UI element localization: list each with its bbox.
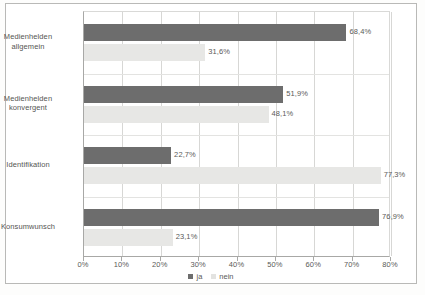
- bar-nein-0: [84, 44, 205, 61]
- x-tick-label: 10%: [106, 260, 136, 269]
- bar-value-label: 23,1%: [176, 228, 198, 245]
- x-tick-label: 80%: [375, 260, 405, 269]
- category-label: Medienheldenallgemein: [0, 32, 67, 51]
- chart-frame: Medienheldenallgemein68,4%31,6%Medienhel…: [5, 3, 417, 284]
- legend-swatch-icon: [211, 274, 216, 279]
- bar-value-label: 51,9%: [286, 85, 308, 102]
- bar-value-label: 31,6%: [208, 43, 230, 60]
- category-label: Konsumwunsch: [0, 222, 67, 232]
- bar-value-label: 22,7%: [174, 146, 196, 163]
- category-separator: [84, 197, 389, 198]
- x-tick-label: 50%: [260, 260, 290, 269]
- x-tick-label: 0%: [68, 260, 98, 269]
- bar-nein-3: [84, 229, 173, 246]
- category-label-line: konvergent: [0, 103, 67, 113]
- category-label-line: allgemein: [0, 42, 67, 52]
- plot-area: [83, 11, 390, 257]
- bar-ja-3: [84, 209, 379, 226]
- x-tick-label: 60%: [298, 260, 328, 269]
- bar-ja-1: [84, 86, 283, 103]
- x-tick-label: 20%: [145, 260, 175, 269]
- category-label-line: Konsumwunsch: [0, 222, 67, 232]
- chart-legend: janein: [6, 272, 416, 281]
- category-separator: [84, 74, 389, 75]
- category-label-line: Identifikation: [0, 160, 67, 170]
- legend-item-nein[interactable]: nein: [211, 272, 233, 281]
- bar-value-label: 48,1%: [272, 105, 294, 122]
- bar-nein-1: [84, 106, 269, 123]
- x-tick-label: 40%: [222, 260, 252, 269]
- category-label-line: Medienhelden: [0, 32, 67, 42]
- category-label-line: Medienhelden: [0, 94, 67, 104]
- legend-label: nein: [219, 272, 233, 281]
- bar-ja-2: [84, 147, 171, 164]
- bar-value-label: 77,3%: [384, 166, 406, 183]
- category-label: Medienheldenkonvergent: [0, 94, 67, 113]
- bar-nein-2: [84, 167, 381, 184]
- category-separator: [84, 135, 389, 136]
- legend-item-ja[interactable]: ja: [188, 272, 202, 281]
- category-label: Identifikation: [0, 160, 67, 170]
- bar-ja-0: [84, 24, 346, 41]
- bar-value-label: 68,4%: [349, 23, 371, 40]
- x-tick-label: 70%: [337, 260, 367, 269]
- legend-swatch-icon: [188, 274, 193, 279]
- bar-value-label: 76,9%: [382, 208, 404, 225]
- legend-label: ja: [196, 272, 202, 281]
- x-tick-label: 30%: [183, 260, 213, 269]
